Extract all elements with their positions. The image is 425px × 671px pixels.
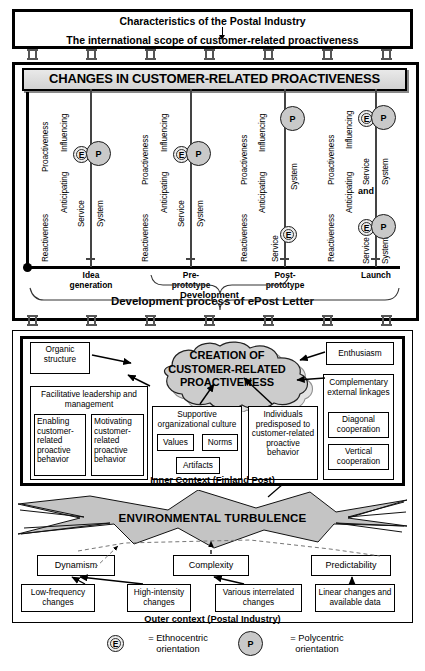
top-box-title: Characteristics of the Postal Industry bbox=[15, 15, 410, 27]
enabling-behavior-box: Enabling customer-related proactive beha… bbox=[34, 414, 86, 476]
motivating-behavior-box: Motivating customer-related proactive be… bbox=[91, 414, 144, 476]
dimension-label-system: System bbox=[290, 163, 299, 190]
individuals-predisposed-box: Individuals predisposed to customer-rela… bbox=[248, 406, 318, 480]
legend-p-icon: P bbox=[238, 631, 263, 656]
postal-industry-box: Characteristics of the Postal Industry T… bbox=[12, 9, 413, 49]
stage-tick-launch bbox=[371, 258, 380, 260]
environmental-turbulence-label: ENVIRONMENTAL TURBULENCE bbox=[18, 511, 407, 524]
enthusiasm-box: Enthusiasm bbox=[326, 342, 394, 365]
stage-label-launch: Launch bbox=[340, 270, 412, 280]
stage-line-idea bbox=[90, 89, 92, 267]
dimension-label-system: System bbox=[196, 200, 205, 227]
dimension-label-service: Service bbox=[77, 200, 86, 227]
connector-pillar bbox=[382, 315, 391, 326]
node-p-launch-reactive: P bbox=[371, 214, 396, 239]
region-label-proactiveness: Proactiveness bbox=[41, 122, 50, 172]
stage-line-preprototype bbox=[190, 89, 192, 267]
node-p-launch-proactive: P bbox=[371, 105, 396, 130]
values-box: Values bbox=[157, 434, 194, 451]
region-label-reactiveness: Reactiveness bbox=[327, 214, 336, 262]
node-e-postprototype-reactive: E bbox=[280, 226, 297, 243]
conjunction-and: and bbox=[358, 186, 374, 196]
legend-e-label: = Ethnocentric orientation bbox=[128, 633, 228, 654]
high-intensity-changes-box: High-intensity changes bbox=[127, 584, 191, 612]
connector-pillar bbox=[87, 49, 96, 60]
dimension-label-system: System bbox=[381, 158, 390, 185]
connector-pillar bbox=[87, 315, 96, 326]
sub-label-influencing: Influencing bbox=[60, 113, 69, 152]
changes-banner-label: CHANGES IN CUSTOMER-RELATED PROACTIVENES… bbox=[24, 70, 405, 87]
sub-label-anticipating: Anticipating bbox=[60, 172, 69, 213]
chart-x-axis bbox=[26, 266, 400, 269]
stage-tick-idea bbox=[86, 258, 95, 260]
top-box-subtitle: The international scope of customer-rela… bbox=[15, 34, 410, 46]
complexity-box: Complexity bbox=[173, 555, 249, 576]
stage-tick-postprototype bbox=[280, 258, 289, 260]
chart-y-axis bbox=[26, 92, 29, 269]
connector-pillar bbox=[28, 49, 37, 60]
dynamism-box: Dynamism bbox=[37, 555, 115, 576]
predictability-box: Predictability bbox=[311, 555, 391, 576]
vertical-cooperation-box: Vertical cooperation bbox=[328, 444, 389, 470]
connector-pillar bbox=[205, 315, 214, 326]
node-p-preprototype-proactive: P bbox=[186, 141, 211, 166]
connector-pillar bbox=[28, 315, 37, 326]
region-label-proactiveness: Proactiveness bbox=[141, 135, 150, 185]
connector-pillar bbox=[382, 49, 391, 60]
connector-pillar bbox=[323, 315, 332, 326]
connector-pillar bbox=[205, 49, 214, 60]
dimension-label-service: Service bbox=[271, 235, 280, 262]
legend: E = Ethnocentric orientation P = Polycen… bbox=[0, 630, 425, 666]
dimension-label-service: Service bbox=[362, 237, 371, 264]
region-label-proactiveness: Proactiveness bbox=[240, 135, 249, 185]
sub-label-influencing: Influencing bbox=[258, 113, 267, 152]
organic-structure-box: Organic structure bbox=[30, 342, 90, 374]
norms-box: Norms bbox=[202, 434, 238, 451]
connector-pillar bbox=[146, 315, 155, 326]
artifacts-box: Artifacts bbox=[176, 457, 220, 474]
connector-pillar bbox=[323, 49, 332, 60]
region-label-reactiveness: Reactiveness bbox=[41, 214, 50, 262]
sub-label-anticipating: Anticipating bbox=[258, 172, 267, 213]
stage-label-preprototype: Pre- prototype bbox=[151, 270, 231, 290]
chart-origin-dot bbox=[23, 263, 32, 272]
development-process-label: Development process of ePost Letter bbox=[0, 295, 425, 307]
various-interrelated-changes-box: Various interrelated changes bbox=[215, 584, 302, 612]
low-frequency-changes-box: Low-frequency changes bbox=[21, 584, 95, 612]
linear-changes-box: Linear changes and available data bbox=[315, 584, 395, 612]
sub-label-influencing: Influencing bbox=[345, 110, 354, 149]
dimension-label-system: System bbox=[381, 237, 390, 264]
changes-banner: CHANGES IN CUSTOMER-RELATED PROACTIVENES… bbox=[22, 68, 407, 91]
region-label-reactiveness: Reactiveness bbox=[141, 214, 150, 262]
legend-e-icon: E bbox=[107, 635, 124, 652]
inner-context-footer: Inner Context (Finland Post) bbox=[0, 475, 425, 485]
stage-tick-preprototype bbox=[186, 258, 195, 260]
node-p-idea-proactive: P bbox=[86, 141, 111, 166]
cloud-label: CREATION OF CUSTOMER-RELATED PROACTIVENE… bbox=[132, 349, 322, 390]
sub-label-influencing: Influencing bbox=[160, 113, 169, 152]
region-label-proactiveness: Proactiveness bbox=[327, 135, 336, 185]
outer-context-footer: Outer context (Postal Industry) bbox=[0, 614, 425, 624]
region-label-reactiveness: Reactiveness bbox=[240, 214, 249, 262]
connector-pillar bbox=[146, 49, 155, 60]
diagonal-cooperation-box: Diagonal cooperation bbox=[328, 412, 389, 438]
sub-label-anticipating: Anticipating bbox=[345, 172, 354, 213]
node-p-postprototype-proactive: P bbox=[280, 106, 305, 131]
connector-pillar bbox=[264, 315, 273, 326]
stage-label-postprototype: Post- prototype bbox=[245, 270, 325, 290]
dimension-label-system: System bbox=[96, 200, 105, 227]
connector-pillar bbox=[264, 49, 273, 60]
dimension-label-service: Service bbox=[362, 158, 371, 185]
dimension-label-service: Service bbox=[177, 200, 186, 227]
sub-label-anticipating: Anticipating bbox=[160, 172, 169, 213]
legend-p-label: = Polycentric orientation bbox=[267, 633, 367, 654]
stage-label-idea: Idea generation bbox=[51, 270, 131, 290]
